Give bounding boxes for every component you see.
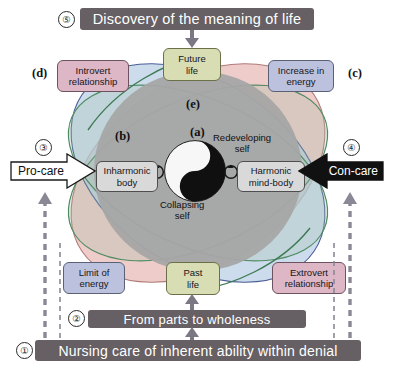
- arrow-bottom-up-icon: [185, 327, 199, 340]
- diagram-canvas: Introvert relationship Increase in energ…: [0, 0, 394, 374]
- connector-layer: [0, 0, 394, 374]
- arrow-past-up-icon: [185, 294, 199, 310]
- dashed-enclosure: [60, 240, 334, 338]
- arrow-top-down-icon: [185, 30, 199, 48]
- dashed-rail-left: [38, 192, 52, 338]
- dashed-rail-right: [343, 192, 357, 338]
